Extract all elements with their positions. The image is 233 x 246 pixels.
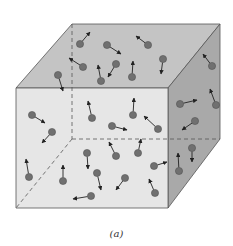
molecule-sphere (48, 128, 55, 135)
molecule-sphere (79, 63, 86, 70)
molecule-sphere (134, 149, 141, 156)
gas-box-diagram (0, 0, 233, 246)
molecule-sphere (25, 173, 32, 180)
molecule-sphere (121, 174, 128, 181)
molecule-sphere (188, 144, 195, 151)
molecule-sphere (83, 149, 90, 156)
molecule-sphere (103, 41, 110, 48)
molecule-sphere (150, 162, 157, 169)
molecule-sphere (112, 152, 119, 159)
molecule-sphere (108, 122, 115, 129)
molecule-sphere (208, 62, 215, 69)
molecule-sphere (154, 125, 161, 132)
molecule-sphere (88, 114, 95, 121)
molecule-sphere (54, 71, 61, 78)
molecule-sphere (176, 100, 183, 107)
molecule-sphere (97, 77, 104, 84)
molecule-sphere (159, 55, 166, 62)
front-face (16, 88, 168, 208)
molecule-sphere (129, 111, 136, 118)
figure-caption: (a) (0, 228, 233, 239)
molecule-sphere (151, 189, 158, 196)
molecule-sphere (191, 117, 198, 124)
molecule-sphere (128, 73, 135, 80)
molecule-sphere (144, 41, 151, 48)
molecule-sphere (93, 169, 100, 176)
molecule-sphere (112, 60, 119, 67)
molecule-sphere (212, 101, 219, 108)
molecule-sphere (59, 177, 66, 184)
molecule-sphere (28, 111, 35, 118)
molecule-sphere (76, 40, 83, 47)
molecule-sphere (87, 192, 94, 199)
molecule-sphere (175, 167, 182, 174)
